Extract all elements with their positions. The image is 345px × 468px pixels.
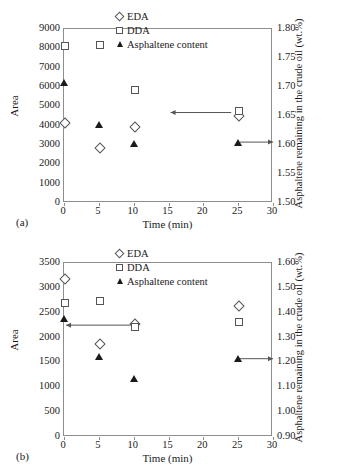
- legend-item-eda: EDA: [113, 246, 208, 260]
- y-tick-label: 7000: [20, 62, 60, 72]
- y-tick-label: 2500: [20, 307, 60, 317]
- x-tick-label: 20: [187, 439, 217, 450]
- data-point-dda: [131, 323, 139, 331]
- y-tick-label: 5000: [20, 100, 60, 110]
- y-tick-label: 1000: [20, 381, 60, 391]
- y-tick-label: 6000: [20, 81, 60, 91]
- x-tick-label: 30: [257, 205, 287, 216]
- data-point-eda: [129, 121, 140, 132]
- y-tick-label: 3000: [20, 282, 60, 292]
- y-tick-label: 500: [20, 406, 60, 416]
- diamond-open-icon: [113, 250, 126, 257]
- panel-a-legend: EDA DDA Asphaltene content: [113, 9, 208, 51]
- y-tick-label: 4000: [20, 120, 60, 130]
- x-tick-label: 25: [222, 439, 252, 450]
- triangle-filled-icon: [113, 278, 126, 284]
- legend-label-dda: DDA: [126, 262, 150, 273]
- panel-a: 0100020003000400050006000700080009000 1.…: [0, 0, 345, 234]
- data-point-asphaltene-content: [130, 375, 138, 382]
- panel-a-x-axis-title: Time (min): [63, 218, 272, 230]
- x-tick-label: 0: [48, 205, 78, 216]
- panel-a-y-axis-title: Area: [8, 76, 20, 136]
- legend-item-dda: DDA: [113, 260, 208, 274]
- legend-label-asphaltene: Asphaltene content: [126, 276, 208, 287]
- data-point-dda: [131, 86, 139, 94]
- panel-b-label: (b): [16, 450, 29, 462]
- x-tick-label: 20: [187, 205, 217, 216]
- panel-b-plot-area: [63, 262, 272, 436]
- data-point-eda: [59, 117, 70, 128]
- legend-item-asphaltene: Asphaltene content: [113, 274, 208, 288]
- x-tick-label: 10: [118, 439, 148, 450]
- legend-label-dda: DDA: [126, 25, 150, 36]
- data-point-asphaltene-content: [234, 355, 242, 362]
- x-tick-label: 30: [257, 439, 287, 450]
- triangle-filled-icon: [113, 41, 126, 47]
- legend-item-dda: DDA: [113, 23, 208, 37]
- data-point-eda: [233, 301, 244, 312]
- figure-two-panel-scatter: 0100020003000400050006000700080009000 1.…: [0, 0, 345, 468]
- y-tick-label: 1500: [20, 356, 60, 366]
- panel-b-y-axis-title: Area: [8, 310, 20, 370]
- data-point-asphaltene-content: [95, 121, 103, 128]
- panel-b-left-axis-ticks: 0500100015002000250030003500: [16, 262, 60, 436]
- data-point-dda: [235, 318, 243, 326]
- legend-item-eda: EDA: [113, 9, 208, 23]
- y-tick-label: 2000: [20, 332, 60, 342]
- x-tick-label: 5: [83, 205, 113, 216]
- x-tick-label: 5: [83, 439, 113, 450]
- data-point-dda: [61, 42, 69, 50]
- panel-a-plot-area: [63, 28, 272, 202]
- legend-label-eda: EDA: [126, 11, 149, 22]
- y-tick-label: 8000: [20, 42, 60, 52]
- data-point-asphaltene-content: [234, 139, 242, 146]
- data-point-dda: [96, 297, 104, 305]
- panel-a-x-axis-ticks: 051015202530: [63, 205, 272, 219]
- square-open-icon: [113, 264, 126, 271]
- legend-item-asphaltene: Asphaltene content: [113, 37, 208, 51]
- x-tick-label: 15: [153, 439, 183, 450]
- panel-b-x-axis-ticks: 051015202530: [63, 439, 272, 453]
- x-tick-label: 0: [48, 439, 78, 450]
- y-tick-label: 3000: [20, 139, 60, 149]
- data-point-asphaltene-content: [130, 140, 138, 147]
- legend-label-eda: EDA: [126, 248, 149, 259]
- panel-b-y2-axis-title: Asphaltene remaining in the crude oil (w…: [293, 238, 304, 458]
- square-open-icon: [113, 27, 126, 34]
- data-point-asphaltene-content: [60, 315, 68, 322]
- data-point-asphaltene-content: [95, 353, 103, 360]
- x-tick-label: 15: [153, 205, 183, 216]
- panel-a-left-axis-ticks: 0100020003000400050006000700080009000: [16, 28, 60, 202]
- x-tick-label: 10: [118, 205, 148, 216]
- x-tick-label: 25: [222, 205, 252, 216]
- y-tick-label: 3500: [20, 257, 60, 267]
- legend-label-asphaltene: Asphaltene content: [126, 39, 208, 50]
- panel-b-x-axis-title: Time (min): [63, 452, 272, 464]
- panel-b-legend: EDA DDA Asphaltene content: [113, 246, 208, 288]
- panel-b: 0500100015002000250030003500 0.901.001.1…: [0, 234, 345, 468]
- panel-b-annotation-arrows: [64, 263, 273, 437]
- panel-a-label: (a): [16, 216, 28, 228]
- data-point-asphaltene-content: [60, 79, 68, 86]
- data-point-eda: [94, 338, 105, 349]
- data-point-dda: [235, 107, 243, 115]
- diamond-open-icon: [113, 13, 126, 20]
- data-point-eda: [94, 142, 105, 153]
- y-tick-label: 2000: [20, 158, 60, 168]
- y-tick-label: 9000: [20, 23, 60, 33]
- data-point-eda: [59, 273, 70, 284]
- y-tick-label: 1000: [20, 178, 60, 188]
- data-point-dda: [96, 41, 104, 49]
- data-point-dda: [61, 299, 69, 307]
- panel-a-y2-axis-title: Asphaltene remaining in the crude oil (w…: [293, 4, 304, 224]
